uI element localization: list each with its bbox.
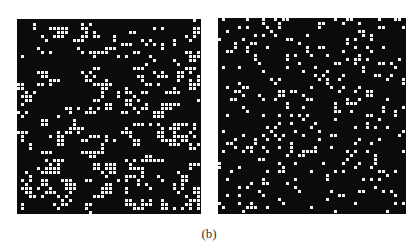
pattern-dot [145,107,148,110]
pattern-dot [149,123,152,126]
pattern-dot [386,174,389,177]
pattern-dot [77,107,80,110]
pattern-dot [161,159,164,162]
pattern-dot [61,203,64,206]
pattern-dot [177,127,180,130]
pattern-dot [254,58,257,61]
pattern-dot [161,103,164,106]
pattern-dot [197,75,200,78]
pattern-dot [185,123,188,126]
pattern-dot [129,167,132,170]
pattern-dot [378,26,381,29]
pattern-dot [25,95,28,98]
pattern-dot [185,175,188,178]
pattern-dot [117,179,120,182]
pattern-dot [262,194,265,197]
pattern-dot [101,151,104,154]
pattern-dot [153,59,156,62]
pattern-dot [286,102,289,105]
pattern-dot [354,38,357,41]
pattern-dot [234,90,237,93]
pattern-dot [161,43,164,46]
pattern-dot [330,134,333,137]
pattern-dot [149,155,152,158]
pattern-dot [314,122,317,125]
pattern-dot [41,71,44,74]
pattern-dot [129,131,132,134]
pattern-dot [57,195,60,198]
pattern-dot [398,58,401,61]
pattern-dot [366,58,369,61]
pattern-dot [101,83,104,86]
pattern-dot [378,18,381,21]
pattern-dot [278,26,281,29]
pattern-dot [278,22,281,25]
pattern-dot [177,135,180,138]
pattern-dot [81,35,84,38]
pattern-dot [37,167,40,170]
pattern-dot [141,123,144,126]
pattern-dot [181,135,184,138]
pattern-dot [101,143,104,146]
pattern-dot [390,74,393,77]
pattern-dot [57,35,60,38]
pattern-dot [57,163,60,166]
pattern-dot [65,107,68,110]
pattern-dot [149,203,152,206]
figure-caption: (b) [0,227,418,241]
pattern-dot [390,62,393,65]
pattern-dot [137,99,140,102]
pattern-dot [222,66,225,69]
pattern-dot [45,167,48,170]
pattern-dot [97,135,100,138]
pattern-dot [378,178,381,181]
pattern-dot [105,107,108,110]
pattern-dot [77,127,80,130]
pattern-dot [278,146,281,149]
pattern-dot [362,66,365,69]
pattern-dot [262,114,265,117]
pattern-dot [81,51,84,54]
pattern-dot [258,94,261,97]
pattern-dot [222,206,225,209]
pattern-dot [262,70,265,73]
pattern-dot [141,199,144,202]
pattern-dot [17,87,20,90]
pattern-dot [65,31,68,34]
pattern-dot [117,55,120,58]
pattern-dot [234,46,237,49]
pattern-dot [125,111,128,114]
pattern-dot [173,91,176,94]
pattern-dot [37,187,40,190]
pattern-dot [61,31,64,34]
pattern-dot [185,51,188,54]
pattern-dot [57,167,60,170]
pattern-dot [266,150,269,153]
pattern-dot [37,71,40,74]
pattern-dot [310,126,313,129]
pattern-dot [189,131,192,134]
pattern-dot [358,22,361,25]
pattern-dot [153,27,156,30]
pattern-dot [322,74,325,77]
pattern-dot [153,71,156,74]
pattern-dot [374,162,377,165]
pattern-dot [338,90,341,93]
pattern-dot [266,46,269,49]
pattern-dot [286,106,289,109]
pattern-dot [346,18,349,21]
pattern-dot [161,127,164,130]
pattern-dot [169,107,172,110]
pattern-dot [394,18,397,21]
pattern-dot [378,62,381,65]
pattern-dot [382,62,385,65]
pattern-dot [298,62,301,65]
pattern-dot [274,134,277,137]
pattern-dot [398,18,401,21]
pattern-dot [149,83,152,86]
pattern-dot [274,82,277,85]
pattern-dot [193,199,196,202]
pattern-dot [302,106,305,109]
pattern-dot [193,187,196,190]
pattern-dot [141,159,144,162]
